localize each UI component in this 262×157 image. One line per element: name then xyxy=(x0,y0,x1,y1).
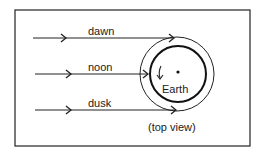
caption: (top view) xyxy=(148,121,196,133)
label-noon: noon xyxy=(88,61,112,73)
rotation-arrow-icon xyxy=(159,66,161,78)
diagram-canvas: dawn noon dusk Earth (top view) xyxy=(0,0,262,157)
label-dusk: dusk xyxy=(88,97,112,109)
ray-noon: noon xyxy=(35,61,148,78)
frame-border xyxy=(15,10,250,146)
ray-dawn: dawn xyxy=(33,25,174,42)
earth-center-dot xyxy=(176,70,179,73)
earth-label: Earth xyxy=(162,83,188,95)
label-dawn: dawn xyxy=(88,25,114,37)
atmosphere-circle xyxy=(140,37,214,111)
ray-dusk: dusk xyxy=(35,97,176,114)
